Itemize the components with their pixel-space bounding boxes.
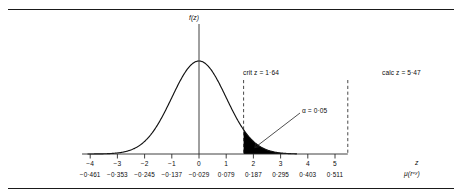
figure-container: f(z) crit z = 1·64 α = 0·05 calc z = 5·4… — [0, 0, 462, 196]
calc-z-annotation: calc z = 5·47 — [382, 70, 421, 77]
x-axis — [82, 154, 348, 159]
y-axis-label: f(z) — [189, 15, 199, 22]
x-axis-symbol-label: z — [415, 160, 419, 167]
x-secondary-tick-label-9: 0·511 — [315, 172, 355, 178]
alpha-leader-line — [255, 113, 300, 148]
x-tick-label-9: 5 — [315, 161, 355, 168]
shaded-alpha-tail — [244, 130, 297, 154]
alpha-annotation: α = 0·05 — [302, 108, 327, 115]
crit-z-annotation: crit z = 1·64 — [243, 70, 279, 77]
x-axis-secondary-symbol-label: μ(rˣʸ) — [404, 171, 420, 178]
